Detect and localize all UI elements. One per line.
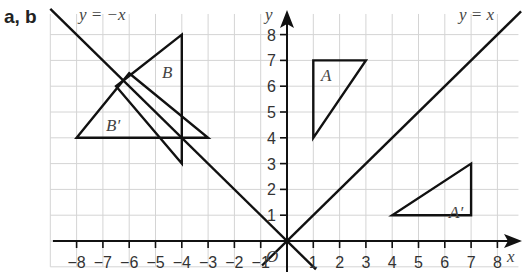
x-tick-label: −7 (94, 254, 112, 271)
x-tick-label: −2 (225, 254, 243, 271)
line-label-y-neg-x: y = −x (77, 5, 126, 24)
x-tick-label: −6 (120, 254, 138, 271)
x-axis-label: x (506, 247, 515, 266)
line-y-neg-x (50, 9, 316, 270)
x-tick-label: 2 (335, 254, 344, 271)
x-tick-label: 1 (309, 254, 318, 271)
line-label-y-x: y = x (457, 5, 495, 24)
y-axis-label: y (263, 5, 273, 24)
x-tick-label: 6 (440, 254, 449, 271)
line-y-x (262, 11, 521, 265)
mirror-lines (50, 9, 521, 270)
coordinate-grid: −8−7−6−5−4−3−2−112345678 12345678 x y y … (0, 0, 525, 274)
origin-label: O (266, 247, 278, 266)
y-tick-label: 5 (267, 104, 276, 121)
x-tick-label: 4 (388, 254, 397, 271)
y-tick-label: 7 (267, 52, 276, 69)
x-tick-label: 3 (361, 254, 370, 271)
shape-label-a: A (320, 66, 332, 85)
triangle-b-prime (77, 73, 209, 138)
shape-label-a-prime: A′ (448, 203, 463, 222)
y-tick-label: 6 (267, 78, 276, 95)
x-tick-label: 5 (414, 254, 423, 271)
y-tick-label: 4 (267, 130, 276, 147)
y-tick-label: 8 (267, 27, 276, 44)
shape-label-b-prime: B′ (106, 116, 120, 135)
x-tick-label: 8 (493, 254, 502, 271)
triangle-b (116, 35, 182, 164)
x-tick-label: −4 (173, 254, 191, 271)
y-tick-label: 1 (267, 207, 276, 224)
grid-lines (50, 14, 518, 267)
shape-label-b: B (162, 63, 173, 82)
x-tick-label: −8 (67, 254, 85, 271)
x-tick-label: −3 (199, 254, 217, 271)
y-tick-label: 3 (267, 156, 276, 173)
y-tick-label: 2 (267, 181, 276, 198)
x-tick-label: −5 (146, 254, 164, 271)
x-tick-label: 7 (467, 254, 476, 271)
